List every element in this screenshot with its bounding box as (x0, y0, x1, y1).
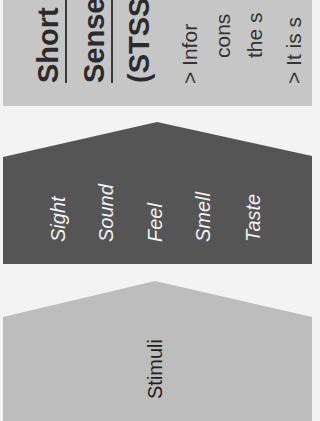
sense-sight: Sight (48, 180, 68, 242)
sense-feel: Feel (145, 190, 165, 242)
sense-taste: Taste (243, 182, 263, 242)
sense-sound: Sound (96, 170, 116, 242)
sense-smell: Smell (193, 178, 213, 242)
stimuli-label: Stimuli (145, 325, 165, 399)
